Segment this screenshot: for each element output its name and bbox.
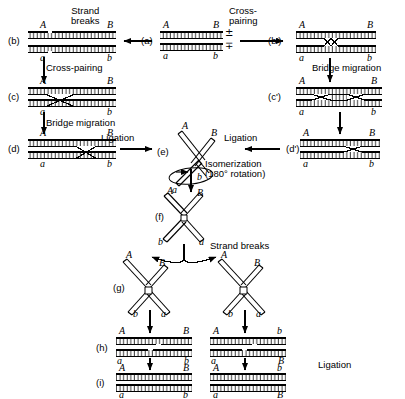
process-label-cross-pairing-top: Cross- pairing	[229, 6, 258, 26]
marker-f-arm-upper-right: B	[197, 188, 203, 198]
marker-ileft-bottom-right: b	[183, 390, 188, 399]
panel-f-isomerized-chi	[163, 193, 204, 242]
marker-f-arm-lower-left: b	[158, 237, 163, 247]
panel-c-crosspaired	[28, 88, 116, 106]
arrow-f-to-g-right	[184, 257, 216, 263]
process-label-isomerization: Isomerization (180° rotation)	[205, 159, 265, 179]
marker-cprime-top-right: B	[371, 76, 377, 86]
panel-c-prime-bridge	[296, 88, 382, 106]
marker-gleft-arm-lower-left: b	[133, 309, 138, 319]
marker-gright-arm-upper-right: B	[254, 258, 260, 268]
marker-f-arm-lower-right: a	[199, 237, 204, 247]
marker-d-top-left: A	[40, 128, 46, 138]
panel-h-left-duplex	[116, 338, 192, 356]
panel-i-right-duplex	[210, 374, 286, 391]
marker-d-bottom-left: a	[40, 159, 45, 169]
stage-label-g: (g)	[113, 283, 125, 293]
marker-dprime-top-left: A	[303, 128, 309, 138]
process-label-bridge-migration-left: Bridge migration	[46, 118, 115, 128]
stage-label-b-prime: (b')	[268, 36, 281, 46]
stage-label-d-prime: (d')	[286, 144, 299, 154]
marker-a-top-left: A	[163, 20, 169, 30]
process-label-ligation-left: Ligation	[101, 133, 134, 143]
marker-c-top-right: B	[107, 76, 113, 86]
marker-dprime-bottom-left: a	[303, 159, 308, 169]
stage-label-e: (e)	[157, 147, 169, 157]
marker-d-bottom-right: b	[107, 159, 112, 169]
marker-cprime-top-left: A	[299, 76, 305, 86]
marker-hleft-top-left: A	[119, 326, 125, 336]
marker-bprime-bottom-left: a	[299, 53, 304, 63]
marker-a-bottom-left: a	[163, 51, 168, 61]
marker-iright-top-left: A	[213, 363, 219, 373]
marker-f-arm-upper-left: A	[167, 186, 173, 196]
marker-ileft-top-right: B	[183, 363, 189, 373]
marker-iright-bottom-right: B	[277, 390, 283, 399]
panel-a-duplexes	[160, 32, 223, 50]
marker-a-top-right: B	[213, 20, 219, 30]
marker-hleft-top-right: B	[183, 326, 189, 336]
marker-cprime-bottom-right: b	[371, 107, 376, 117]
panel-b-nicked-duplexes	[28, 31, 116, 53]
marker-c-top-left: A	[40, 76, 46, 86]
marker-dprime-bottom-right: b	[369, 159, 374, 169]
marker-iright-top-right: b	[277, 363, 282, 373]
panel-i-left-duplex	[116, 374, 192, 391]
marker-c-bottom-right: b	[107, 107, 112, 117]
marker-iright-bottom-left: a	[213, 390, 218, 399]
process-label-cross-pairing-left: Cross-pairing	[46, 63, 103, 73]
duplexes-and-junctions	[28, 31, 382, 391]
marker-a-bottom-right: b	[213, 51, 218, 61]
process-label-bridge-migration-right: Bridge migration	[312, 63, 381, 73]
panel-d-prime-ligated	[300, 140, 380, 158]
marker-gleft-arm-lower-right: a	[161, 309, 166, 319]
stage-label-f: (f)	[155, 212, 164, 222]
stage-label-c-prime: (c')	[268, 92, 281, 102]
marker-c-bottom-left: a	[40, 107, 45, 117]
process-label-strand-breaks-mid: Strand breaks	[210, 241, 269, 251]
marker-gleft-arm-upper-left: A	[126, 250, 132, 260]
marker-cprime-bottom-left: a	[299, 107, 304, 117]
marker-e-arm-upper-right: B	[211, 128, 217, 138]
marker-dprime-top-right: B	[369, 128, 375, 138]
marker-d-top-right: B	[107, 128, 113, 138]
marker-hright-top-right: b	[277, 326, 282, 336]
marker-gright-arm-lower-right: a	[256, 309, 261, 319]
polarity-minusplus: ∓	[225, 41, 233, 51]
marker-bprime-top-right: B	[367, 20, 373, 30]
marker-b-top-right: B	[107, 20, 113, 30]
recombination-diagram	[0, 0, 405, 399]
marker-gleft-arm-upper-right: B	[159, 258, 165, 268]
stage-label-h: (h)	[96, 343, 108, 353]
marker-bprime-top-left: A	[299, 20, 305, 30]
marker-b-bottom-left: a	[40, 53, 45, 63]
process-label-ligation-bottom: Ligation	[318, 360, 351, 370]
stage-label-d: (d)	[8, 144, 20, 154]
marker-b-top-left: A	[40, 20, 46, 30]
marker-hright-top-left: A	[213, 326, 219, 336]
marker-bprime-bottom-right: b	[367, 53, 372, 63]
stage-label-c: (c)	[8, 92, 19, 102]
marker-b-bottom-right: b	[107, 53, 112, 63]
polarity-plusminus: ±	[225, 28, 233, 38]
marker-e-arm-lower-right: b	[197, 172, 202, 182]
panel-h-right-duplex	[210, 338, 286, 356]
stage-label-b: (b)	[8, 36, 20, 46]
marker-ileft-top-left: A	[119, 363, 125, 373]
marker-ileft-bottom-left: a	[119, 390, 124, 399]
stage-label-i: (i)	[96, 378, 104, 388]
process-label-ligation-right: Ligation	[224, 133, 257, 143]
panel-b-prime-crosspaired	[296, 32, 376, 52]
arrow-f-to-g-left	[152, 257, 184, 263]
marker-gright-arm-upper-left: A	[221, 250, 227, 260]
marker-gright-arm-lower-left: b	[228, 309, 233, 319]
marker-e-arm-upper-left: A	[182, 121, 188, 131]
stage-label-a: (a)	[141, 36, 153, 46]
process-label-strand-breaks-top: Strand breaks	[71, 6, 100, 26]
